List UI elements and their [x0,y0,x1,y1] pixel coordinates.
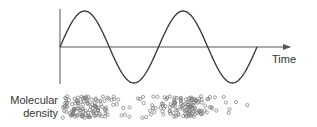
time-axis-label: Time [272,53,296,65]
molecule-dot [213,96,216,99]
molecule-dot [182,115,185,118]
molecule-dot [73,97,76,100]
molecule-dot [117,98,120,101]
molecule-density-band [61,95,249,120]
molecule-dot [235,101,238,104]
molecule-dot [115,103,118,106]
molecule-dot [199,95,202,98]
molecule-dot [162,113,165,116]
molecule-dot [204,104,207,107]
molecule-dot [203,109,206,112]
molecule-dot [141,116,144,119]
molecule-dot [81,103,84,106]
molecule-dot [124,113,127,116]
molecule-dot [215,109,218,112]
molecule-dot [120,114,123,117]
molecule-dot [149,109,152,112]
molecular-density-label-line2: density [23,107,58,119]
molecule-dot [128,115,131,118]
molecule-dot [142,102,145,105]
molecule-dot [156,95,159,98]
molecule-dot [172,112,175,115]
molecule-dot [128,106,131,109]
molecule-dot [222,95,225,98]
molecule-dot [224,101,227,104]
molecule-dot [101,95,104,98]
molecule-dot [90,98,93,101]
molecule-dot [246,104,249,107]
molecule-dot [94,98,97,101]
molecule-dot [168,106,171,109]
molecule-dot [149,113,152,116]
molecule-dot [71,103,74,106]
molecule-dot [112,103,115,106]
molecule-dot [61,116,64,119]
molecule-dot [227,112,230,115]
sound-wave-diagram: Time Molecular density [0,0,317,127]
molecule-dot [145,116,148,119]
molecule-dot [169,103,172,106]
molecule-dot [228,108,231,111]
molecular-density-label-line1: Molecular [10,94,58,106]
molecule-dot [142,95,145,98]
molecule-dot [152,95,155,98]
molecule-dot [122,106,125,109]
molecule-dot [103,99,106,102]
molecule-dot [153,110,156,113]
